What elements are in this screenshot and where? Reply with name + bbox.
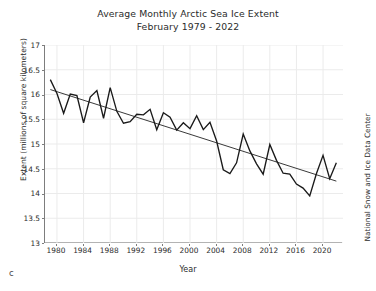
x-tick-label: 2016 — [280, 246, 310, 255]
x-tick-mark — [136, 244, 137, 246]
y-tick-mark — [42, 218, 44, 219]
trend-line-path — [50, 90, 336, 182]
x-tick-label: 2012 — [254, 246, 284, 255]
data-line-path — [50, 80, 336, 196]
y-tick-mark — [42, 119, 44, 120]
y-tick-mark — [42, 45, 44, 46]
x-tick-label: 2008 — [227, 246, 257, 255]
data-source-credit: National Snow and Ice Data Center — [363, 98, 372, 258]
chart-title-line1: Average Monthly Arctic Sea Ice Extent — [97, 8, 278, 19]
x-tick-label: 2000 — [174, 246, 204, 255]
plot-svg — [45, 45, 343, 243]
x-tick-label: 1980 — [41, 246, 71, 255]
x-tick-label: 2020 — [307, 246, 337, 255]
x-tick-mark — [109, 244, 110, 246]
y-tick-mark — [42, 169, 44, 170]
x-tick-mark — [189, 244, 190, 246]
x-tick-label: 1984 — [68, 246, 98, 255]
x-tick-mark — [295, 244, 296, 246]
y-tick-mark — [42, 194, 44, 195]
y-tick-mark — [42, 70, 44, 71]
x-tick-mark — [56, 244, 57, 246]
x-axis-title: Year — [0, 265, 376, 274]
chart-title-line2: February 1979 - 2022 — [0, 20, 376, 33]
chart-figure: Average Monthly Arctic Sea Ice Extent Fe… — [0, 0, 376, 291]
y-tick-label: 13 — [8, 239, 40, 248]
chart-title: Average Monthly Arctic Sea Ice Extent Fe… — [0, 7, 376, 33]
x-tick-label: 1992 — [121, 246, 151, 255]
x-tick-mark — [162, 244, 163, 246]
y-tick-mark — [42, 144, 44, 145]
plot-area — [44, 45, 342, 243]
x-tick-label: 1996 — [147, 246, 177, 255]
x-tick-mark — [269, 244, 270, 246]
x-tick-label: 1988 — [94, 246, 124, 255]
y-axis-title: Extent (millions of square kilometers) — [19, 15, 28, 205]
x-tick-mark — [322, 244, 323, 246]
x-tick-mark — [83, 244, 84, 246]
y-tick-mark — [42, 95, 44, 96]
gridlines — [45, 45, 343, 243]
y-tick-mark — [42, 243, 44, 244]
y-tick-label: 13.5 — [8, 214, 40, 223]
x-tick-label: 2004 — [201, 246, 231, 255]
x-tick-mark — [242, 244, 243, 246]
x-tick-mark — [216, 244, 217, 246]
corner-mark: c — [9, 268, 14, 278]
